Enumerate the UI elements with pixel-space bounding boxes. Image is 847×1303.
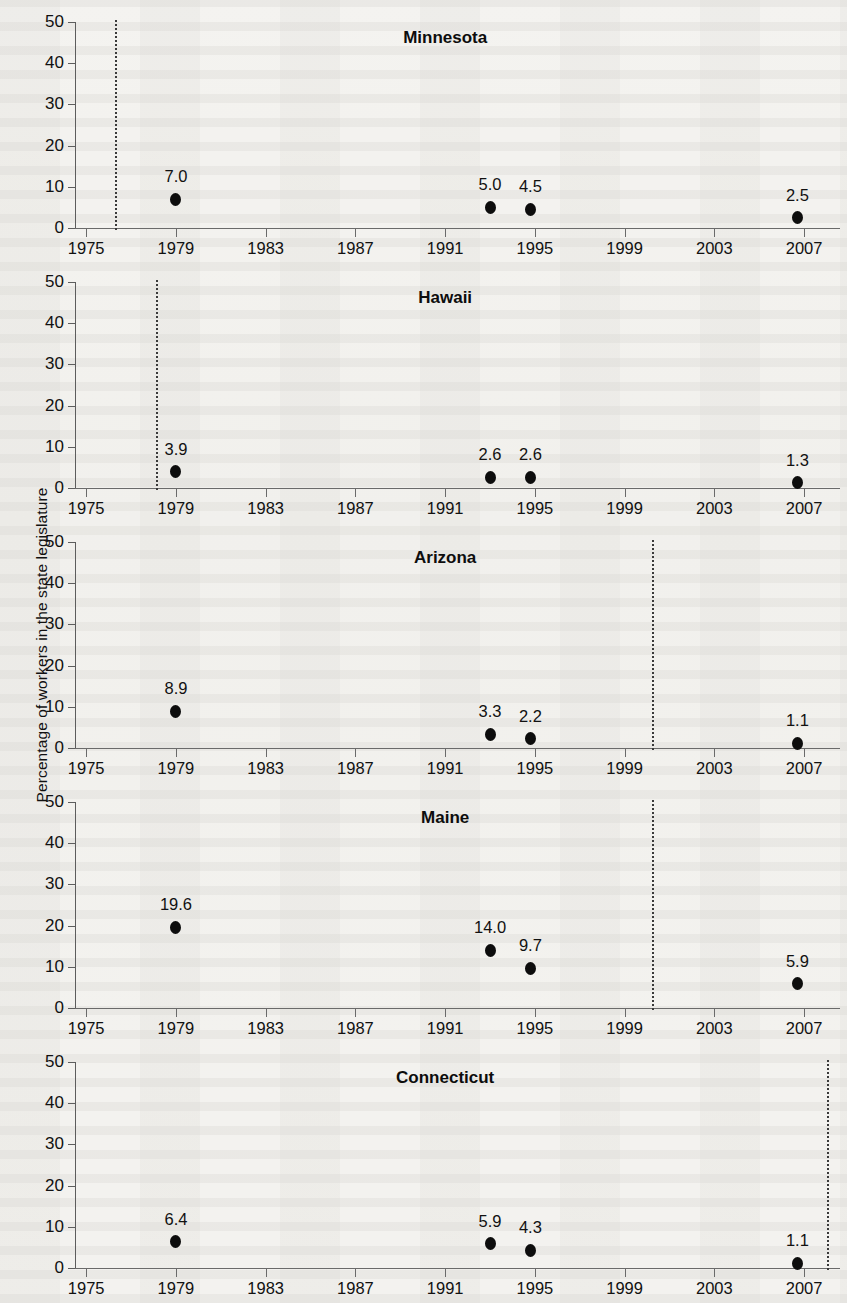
x-tick-label: 1991 — [427, 499, 464, 518]
x-tick — [266, 1268, 267, 1277]
x-tick — [625, 748, 626, 757]
x-tick — [176, 1008, 177, 1017]
x-tick-label: 1975 — [68, 1019, 105, 1038]
x-tick-label: 1975 — [68, 759, 105, 778]
x-tick — [804, 228, 805, 237]
data-point-label: 5.0 — [479, 175, 502, 194]
data-point — [485, 944, 496, 957]
x-tick-label: 1999 — [606, 1279, 643, 1298]
x-tick-label: 1975 — [68, 239, 105, 258]
x-tick — [625, 228, 626, 237]
y-tick — [68, 926, 75, 927]
panel-maine: 0102030405019751979198319871991199519992… — [0, 802, 847, 1062]
y-tick — [68, 666, 75, 667]
x-tick-label: 1999 — [606, 239, 643, 258]
x-axis-line — [75, 1008, 840, 1009]
y-tick-label: 10 — [45, 697, 64, 717]
x-tick — [804, 1268, 805, 1277]
x-tick — [535, 748, 536, 757]
x-tick — [355, 488, 356, 497]
x-tick-label: 1999 — [606, 1019, 643, 1038]
y-tick — [68, 967, 75, 968]
y-tick-label: 40 — [45, 1093, 64, 1113]
data-point — [525, 471, 536, 484]
y-tick — [68, 406, 75, 407]
y-tick-label: 50 — [45, 532, 64, 552]
panel-title: Connecticut — [396, 1068, 494, 1088]
x-tick-label: 2007 — [786, 499, 823, 518]
panel-title: Maine — [421, 808, 469, 828]
x-tick-label: 1983 — [247, 499, 284, 518]
data-point-label: 3.3 — [479, 702, 502, 721]
y-tick-label: 20 — [45, 656, 64, 676]
data-point — [485, 201, 496, 214]
y-tick-label: 50 — [45, 272, 64, 292]
x-tick — [804, 1008, 805, 1017]
x-tick-label: 1999 — [606, 759, 643, 778]
data-point-label: 9.7 — [519, 936, 542, 955]
y-axis-line — [75, 802, 76, 1008]
y-tick-label: 0 — [55, 218, 64, 238]
x-tick-label: 1995 — [517, 1019, 554, 1038]
y-tick — [68, 1227, 75, 1228]
x-tick — [355, 228, 356, 237]
y-tick-label: 40 — [45, 573, 64, 593]
x-tick-label: 1987 — [337, 239, 374, 258]
x-tick-label: 1975 — [68, 499, 105, 518]
x-tick — [625, 488, 626, 497]
data-point — [792, 476, 803, 489]
y-tick-label: 10 — [45, 437, 64, 457]
x-tick-label: 1983 — [247, 1279, 284, 1298]
data-point — [792, 737, 803, 750]
data-point — [525, 1244, 536, 1257]
x-axis-line — [75, 748, 840, 749]
x-axis-line — [75, 1268, 840, 1269]
data-point-label: 1.1 — [786, 1231, 809, 1250]
x-tick-label: 1995 — [517, 759, 554, 778]
reference-line — [827, 1060, 829, 1270]
x-tick — [445, 748, 446, 757]
x-tick — [714, 1008, 715, 1017]
y-tick — [68, 843, 75, 844]
y-tick-label: 20 — [45, 1176, 64, 1196]
y-tick-label: 30 — [45, 94, 64, 114]
x-tick-label: 1987 — [337, 1019, 374, 1038]
data-point — [525, 732, 536, 745]
data-point — [170, 921, 181, 934]
y-axis-line — [75, 1062, 76, 1268]
plot-area: 0102030405019751979198319871991199519992… — [75, 802, 840, 1008]
data-point-label: 2.6 — [479, 445, 502, 464]
x-tick-label: 1979 — [158, 759, 195, 778]
y-tick-label: 10 — [45, 177, 64, 197]
x-tick-label: 1995 — [517, 1279, 554, 1298]
y-tick — [68, 323, 75, 324]
x-tick-label: 2003 — [696, 499, 733, 518]
panel-title: Hawaii — [418, 288, 472, 308]
y-tick — [68, 364, 75, 365]
x-tick — [535, 228, 536, 237]
x-tick — [266, 488, 267, 497]
x-tick — [445, 1268, 446, 1277]
y-axis-line — [75, 282, 76, 488]
data-point — [170, 465, 181, 478]
x-tick-label: 1991 — [427, 1279, 464, 1298]
data-point — [485, 1237, 496, 1250]
y-tick-label: 50 — [45, 1052, 64, 1072]
y-tick — [68, 802, 75, 803]
x-tick-label: 1987 — [337, 499, 374, 518]
data-point — [792, 211, 803, 224]
y-tick-label: 50 — [45, 792, 64, 812]
y-axis-line — [75, 542, 76, 748]
y-tick-label: 30 — [45, 874, 64, 894]
y-tick-label: 50 — [45, 12, 64, 32]
x-tick-label: 1995 — [517, 239, 554, 258]
x-tick — [86, 1268, 87, 1277]
y-tick-label: 40 — [45, 833, 64, 853]
x-tick-label: 2007 — [786, 1279, 823, 1298]
x-tick-label: 1987 — [337, 759, 374, 778]
x-tick-label: 1979 — [158, 499, 195, 518]
x-tick — [355, 1008, 356, 1017]
x-tick-label: 2003 — [696, 1019, 733, 1038]
y-tick-label: 30 — [45, 1134, 64, 1154]
panel-minnesota: 0102030405019751979198319871991199519992… — [0, 22, 847, 282]
